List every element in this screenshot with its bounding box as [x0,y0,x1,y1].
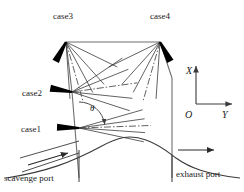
label-origin: O [185,110,192,120]
scavenge-guide-upper [20,141,79,158]
case1-spray-ray [79,119,145,128]
left-liner-wall [72,92,79,178]
label-case2: case2 [22,89,42,98]
flow-arrow-layer [28,150,214,165]
coordinate-axes [196,66,232,104]
scavenge-guide-lower [22,153,79,172]
case3-spray-ray [66,42,117,67]
case1-spray-ray [79,110,143,128]
case4-nozzle [159,41,173,63]
label-case1: case1 [21,125,41,134]
case4-spray-ray [156,42,160,99]
label-exhaust-port: exhaust port [176,170,220,179]
case3-nozzle [52,41,66,63]
spray-ray-layer [66,42,160,142]
engine-chamber-diagram: case1 case2 case3 case4 θ X Y O scavenge… [0,0,244,192]
case4-spray-ray [109,42,160,67]
port-flow-lines [20,141,79,172]
label-axis-x: X [186,66,192,76]
label-case4: case4 [150,12,170,21]
case1-nozzle [57,124,79,131]
case2-spray-ray [72,83,137,92]
label-case3: case3 [53,12,73,21]
label-scavenge-port: scavenge port [4,174,54,183]
label-axis-y: Y [222,110,228,120]
label-theta-angle: θ [90,104,94,113]
port-tick-marks [79,150,172,182]
